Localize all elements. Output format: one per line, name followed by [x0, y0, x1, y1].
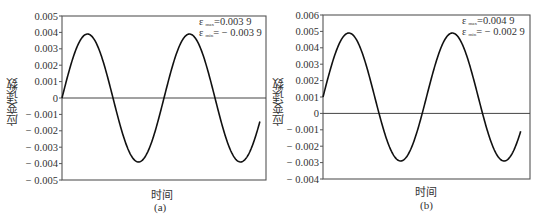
strain-curve	[323, 33, 521, 161]
x-axis-label: 时间	[151, 186, 173, 202]
y-tick-label: 0.004	[295, 42, 319, 53]
y-tick-label: − 0.001	[26, 109, 58, 120]
y-tick-label: − 0.004	[287, 174, 320, 185]
y-tick-label: 0.003	[295, 59, 319, 70]
y-tick-label: − 0.005	[26, 175, 58, 186]
y-tick-label: − 0.001	[287, 124, 319, 135]
chart-a-plot: 0.0050.0040.0030.0020.0010− 0.001− 0.002…	[0, 0, 268, 222]
chart-panel-b: 0.0060.0050.0040.0030.0020.0010− 0.001− …	[266, 0, 534, 222]
y-tick-label: 0.003	[34, 43, 58, 54]
y-tick-label: 0.005	[34, 11, 58, 22]
figure-caption: (b)	[420, 199, 433, 211]
chart-panel-a: 0.0050.0040.0030.0020.0010− 0.001− 0.002…	[0, 0, 268, 222]
y-tick-label: 0	[53, 93, 58, 104]
figure-caption: (a)	[154, 201, 166, 213]
y-tick-label: 0.001	[34, 76, 58, 87]
y-tick-label: 0.005	[295, 26, 319, 37]
chart-b-plot: 0.0060.0050.0040.0030.0020.0010− 0.001− …	[266, 0, 534, 222]
y-tick-label: 0.002	[295, 75, 319, 86]
epsilon-annotation: εmax=0.004 9	[462, 15, 514, 26]
y-tick-label: 0.004	[34, 27, 58, 38]
y-tick-label: − 0.002	[26, 125, 58, 136]
y-tick-label: − 0.004	[26, 158, 59, 169]
y-tick-label: 0.006	[295, 10, 319, 21]
y-axis-label: 应变读数	[270, 78, 287, 126]
y-tick-label: − 0.003	[287, 157, 319, 168]
y-tick-label: − 0.003	[26, 142, 58, 153]
y-tick-label: 0.001	[295, 92, 319, 103]
epsilon-annotation: εmin= − 0.003 9	[199, 27, 262, 38]
y-axis-label: 应变读数	[4, 78, 21, 126]
epsilon-annotation: εmin= − 0.002 9	[462, 26, 525, 37]
y-tick-label: 0	[314, 108, 319, 119]
y-tick-label: − 0.002	[287, 141, 319, 152]
x-axis-label: 时间	[415, 183, 437, 199]
epsilon-annotation: εmax=0.003 9	[199, 16, 251, 27]
y-tick-label: 0.002	[34, 60, 58, 71]
